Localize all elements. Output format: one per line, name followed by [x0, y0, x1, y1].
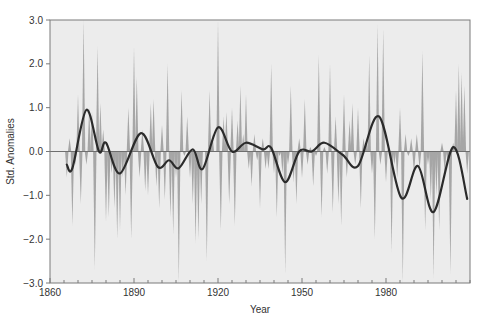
x-tick-label: 1860 [39, 287, 62, 298]
x-tick-label: 1890 [123, 287, 146, 298]
y-tick-label: −1.0 [23, 190, 43, 201]
y-axis-title: Std. Anomalies [5, 118, 16, 185]
x-tick-label: 1950 [291, 287, 314, 298]
y-tick-label: 2.0 [29, 58, 43, 69]
anomaly-chart: 3.02.01.00.0−1.0−2.0−3.0 186018901920195… [0, 0, 482, 322]
y-tick-label: 3.0 [29, 15, 43, 26]
x-tick-label: 1920 [207, 287, 230, 298]
x-axis-title: Year [250, 304, 271, 315]
x-tick-label: 1980 [375, 287, 398, 298]
y-tick-label: 1.0 [29, 102, 43, 113]
y-axis: 3.02.01.00.0−1.0−2.0−3.0 [23, 15, 50, 289]
y-tick-label: −2.0 [23, 234, 43, 245]
y-tick-label: 0.0 [29, 146, 43, 157]
